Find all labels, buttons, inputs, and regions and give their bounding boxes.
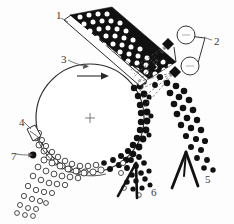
callout-label-1: 1 bbox=[56, 10, 62, 21]
caption-strip bbox=[0, 215, 234, 224]
callout-label-5: 5 bbox=[205, 174, 211, 185]
figure-root: 1 2 3 4 5 6 7 bbox=[0, 0, 234, 224]
callout-label-3: 3 bbox=[61, 54, 67, 65]
callout-label-6: 6 bbox=[151, 187, 157, 198]
callout-label-7: 7 bbox=[11, 151, 17, 162]
callout-label-4: 4 bbox=[19, 117, 25, 128]
callout-label-2: 2 bbox=[214, 36, 220, 47]
granulator-diagram bbox=[0, 0, 234, 224]
